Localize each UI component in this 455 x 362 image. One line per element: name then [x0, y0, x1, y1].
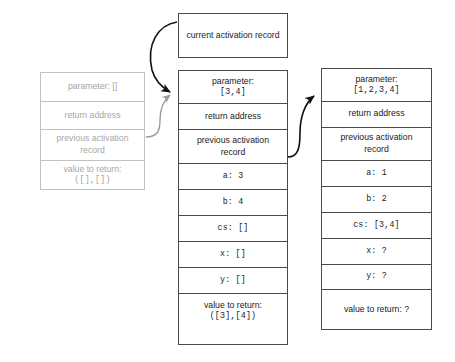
- middle-var-x-text: x: []: [220, 249, 246, 260]
- ghost-value-line2: ([],[]): [74, 175, 110, 186]
- ghost-prev-line1: previous activation: [57, 133, 129, 144]
- middle-row-var-cs: cs: []: [179, 216, 287, 242]
- right-prev-line1: previous activation: [341, 132, 413, 143]
- activation-record-diagram: current activation record parameter: [] …: [0, 0, 455, 362]
- right-row-previous-activation-record: previous activation record: [322, 128, 431, 162]
- middle-value-line2: ([3],[4]): [210, 311, 257, 322]
- right-activation-record: parameter: [1,2,3,4] return address prev…: [321, 68, 432, 330]
- middle-row-parameter: parameter: [3,4]: [179, 71, 287, 104]
- current-activation-record-label: current activation record: [186, 30, 279, 41]
- right-row-value-to-return: value to return: ?: [322, 290, 431, 329]
- middle-activation-record: parameter: [3,4] return address previous…: [178, 70, 288, 345]
- middle-return-address-text: return address: [205, 111, 261, 122]
- arrow-current-to-middle: [150, 22, 177, 92]
- right-var-cs-text: cs: [3,4]: [353, 220, 400, 231]
- middle-row-return-address: return address: [179, 104, 287, 130]
- current-activation-record-box: current activation record: [178, 13, 288, 58]
- right-value-to-return-text: value to return: ?: [344, 304, 409, 315]
- right-row-var-x: x: ?: [322, 239, 431, 265]
- right-parameter-line1: parameter:: [355, 74, 397, 85]
- ghost-value-line1: value to return:: [64, 164, 122, 175]
- inactive-activation-record: parameter: [] return address previous ac…: [40, 72, 145, 190]
- right-prev-line2: record: [364, 144, 389, 155]
- ghost-row-return-address: return address: [41, 102, 144, 131]
- arrow-ghost-prev-to-middle: [146, 95, 170, 137]
- middle-parameter-line2: [3,4]: [220, 87, 246, 98]
- ghost-parameter-text: parameter: []: [68, 81, 117, 92]
- right-parameter-line2: [1,2,3,4]: [353, 85, 400, 96]
- middle-prev-line2: record: [221, 147, 246, 158]
- middle-prev-line1: previous activation: [197, 135, 269, 146]
- middle-row-var-a: a: 3: [179, 164, 287, 190]
- middle-parameter-line1: parameter:: [212, 76, 254, 87]
- right-row-return-address: return address: [322, 102, 431, 128]
- ghost-row-value-to-return: value to return: ([],[]): [41, 161, 144, 190]
- right-row-var-a: a: 1: [322, 161, 431, 187]
- middle-value-line1: value to return:: [204, 300, 262, 311]
- ghost-prev-line2: record: [80, 145, 105, 156]
- right-row-var-cs: cs: [3,4]: [322, 213, 431, 239]
- right-var-a-text: a: 1: [366, 168, 387, 179]
- middle-var-b-text: b: 4: [223, 197, 244, 208]
- right-var-x-text: x: ?: [366, 246, 387, 257]
- ghost-row-previous-activation-record: previous activation record: [41, 130, 144, 160]
- right-row-var-b: b: 2: [322, 187, 431, 213]
- ghost-return-address-text: return address: [64, 110, 120, 121]
- right-return-address-text: return address: [348, 108, 404, 119]
- right-row-parameter: parameter: [1,2,3,4]: [322, 69, 431, 102]
- arrow-middle-prev-to-right: [288, 96, 314, 157]
- right-var-y-text: y: ?: [366, 271, 387, 282]
- middle-var-cs-text: cs: []: [217, 223, 248, 234]
- middle-var-a-text: a: 3: [223, 171, 244, 182]
- right-row-var-y: y: ?: [322, 265, 431, 291]
- middle-var-y-text: y: []: [220, 275, 246, 286]
- right-var-b-text: b: 2: [366, 194, 387, 205]
- middle-row-value-to-return: value to return: ([3],[4]): [179, 294, 287, 328]
- middle-row-var-y: y: []: [179, 268, 287, 294]
- ghost-row-parameter: parameter: []: [41, 73, 144, 102]
- middle-row-var-b: b: 4: [179, 190, 287, 216]
- middle-row-var-x: x: []: [179, 242, 287, 268]
- middle-row-previous-activation-record: previous activation record: [179, 130, 287, 164]
